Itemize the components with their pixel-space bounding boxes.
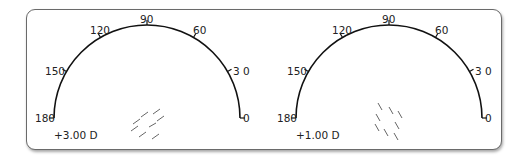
tick-label-30: 3 0 — [233, 65, 250, 77]
tick-label-90: 90 — [140, 13, 153, 25]
tick-label-90: 90 — [382, 13, 395, 25]
tick-label-60: 60 — [435, 24, 448, 36]
power-label: +3.00 D — [54, 129, 98, 141]
arc — [296, 25, 482, 118]
tick-label-30: 3 0 — [475, 65, 492, 77]
tick-label-60: 60 — [193, 24, 206, 36]
hatch-pattern — [375, 103, 402, 140]
tick-label-120: 120 — [332, 24, 352, 36]
power-label: +1.00 D — [296, 129, 340, 141]
tick-label-0: 0 — [243, 112, 250, 124]
tick-label-120: 120 — [90, 24, 110, 36]
tick-label-150: 150 — [287, 65, 307, 77]
hatch-pattern — [131, 109, 164, 139]
left-dial: 180 150 120 90 60 3 0 0 +3.00 D — [35, 13, 250, 141]
tick-label-180: 180 — [35, 112, 55, 124]
tick-label-180: 180 — [277, 112, 297, 124]
tick-label-0: 0 — [485, 112, 492, 124]
tick-label-150: 150 — [45, 65, 65, 77]
arc — [54, 25, 240, 118]
axis-dials: 180 150 120 90 60 3 0 0 +3.00 D 180 150 … — [0, 0, 525, 158]
right-dial: 180 150 120 90 60 3 0 0 +1.00 D — [277, 13, 492, 141]
